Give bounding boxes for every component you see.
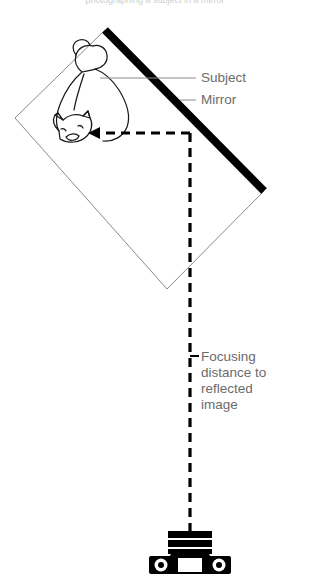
cat-tail [82,69,96,72]
camera [149,531,231,574]
focusing-distance-line-1: Focusing [201,349,256,364]
cat-eye-right [78,126,83,128]
camera-prism-face [178,558,202,572]
diagram-canvas: photographing a subject in a mirror [0,0,310,580]
camera-lens-ring-1 [168,531,212,538]
cat-eye-left [61,129,66,131]
camera-lens-ring-3 [168,549,212,554]
reflected-ray-arrowhead [88,127,100,139]
camera-dial-left-center [158,562,164,568]
mirror-label: Mirror [201,92,237,107]
focusing-distance-label: Focusing distance to reflected image [201,349,270,412]
camera-lens-ring-2 [168,540,212,547]
focusing-distance-line-3: reflected [201,381,253,396]
cat-subject [54,40,129,143]
subject-label: Subject [201,70,246,85]
focusing-distance-line-4: image [201,397,238,412]
mirror [105,30,264,191]
cat-body-right [93,45,129,141]
focusing-distance-line-2: distance to [201,365,266,380]
cropped-caption: photographing a subject in a mirror [85,0,224,5]
cat-muzzle [66,134,79,140]
camera-dial-right-center [216,562,222,568]
cat-ear-right [83,111,90,118]
mirror-focusing-diagram: photographing a subject in a mirror [0,0,310,580]
